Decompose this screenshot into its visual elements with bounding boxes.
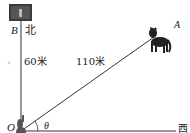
- north-label: 北: [25, 25, 36, 36]
- oa-distance-label: 110米: [76, 57, 105, 67]
- oa-line: [21, 37, 154, 131]
- wolf-icon: [149, 27, 170, 53]
- angle-arc: [35, 121, 38, 131]
- theta-label: θ: [44, 121, 49, 131]
- west-label: 西: [178, 124, 188, 133]
- point-b-label: B: [11, 25, 18, 36]
- point-o-label: O: [7, 122, 15, 133]
- photo-icon: [9, 4, 32, 21]
- point-a-label: A: [174, 20, 180, 30]
- ob-distance-label: 60米: [24, 57, 47, 67]
